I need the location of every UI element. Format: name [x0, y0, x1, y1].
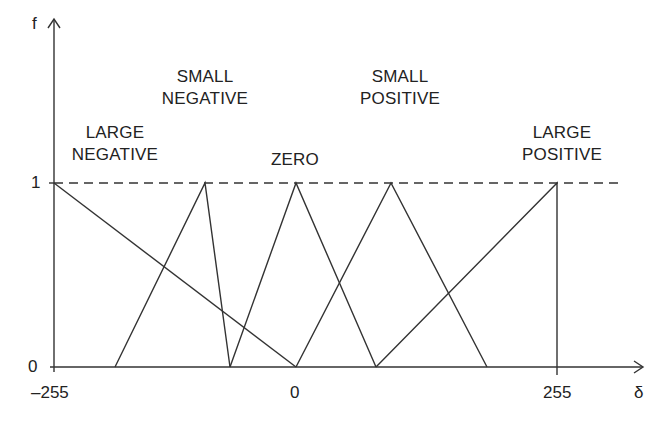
- x-tick-label-max: 255: [543, 383, 571, 403]
- label-small-negative: SMALL NEGATIVE: [150, 66, 260, 110]
- x-tick-label-zero: 0: [290, 383, 299, 403]
- y-axis-label: f: [32, 14, 37, 34]
- label-large-negative: LARGE NEGATIVE: [60, 122, 170, 166]
- small-positive-triangle: [296, 183, 487, 367]
- x-axis-label: δ: [634, 383, 643, 403]
- y-tick-label-zero: 0: [28, 357, 37, 377]
- membership-function-diagram: [0, 0, 669, 439]
- label-large-positive: LARGE POSITIVE: [507, 122, 617, 166]
- zero-triangle: [230, 183, 376, 367]
- label-small-positive: SMALL POSITIVE: [345, 66, 455, 110]
- large-negative-line: [54, 183, 296, 367]
- label-zero: ZERO: [255, 149, 335, 171]
- y-tick-label-one: 1: [31, 173, 40, 193]
- small-negative-triangle: [115, 183, 230, 367]
- large-positive-shape: [376, 183, 557, 367]
- x-tick-label-min: –255: [31, 383, 69, 403]
